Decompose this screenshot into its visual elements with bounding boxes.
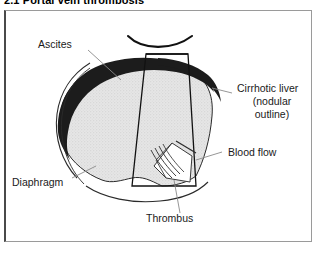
label-thrombus: Thrombus <box>146 212 193 224</box>
label-ascites: Ascites <box>38 38 72 50</box>
figure-page: 2.1 Portal vein thrombosis <box>0 0 318 256</box>
label-blood-flow: Blood flow <box>228 146 277 158</box>
anatomy-illustration: Ascites Cirrhotic liver (nodular outline… <box>0 0 318 256</box>
probe-arc <box>128 36 192 47</box>
label-cirrhotic-liver-line1: Cirrhotic liver <box>237 82 299 94</box>
label-cirrhotic-liver-line3: outline) <box>255 108 289 120</box>
label-cirrhotic-liver-line2: (nodular <box>253 95 292 107</box>
label-diaphragm: Diaphragm <box>12 176 64 188</box>
